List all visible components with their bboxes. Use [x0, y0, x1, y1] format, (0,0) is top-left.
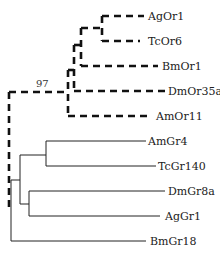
- leaf-label-bmgr18: BmGr18: [150, 235, 197, 248]
- gr-clade-branches: [11, 141, 165, 241]
- leaf-label-tcgr140: TcGr140: [158, 160, 206, 173]
- leaf-label-bmor1: BmOr1: [162, 60, 202, 73]
- or-clade-branches: [9, 16, 165, 210]
- leaf-label-aggr1: AgGr1: [164, 210, 201, 223]
- bootstrap-value: 97: [36, 78, 49, 89]
- leaf-label-amor11: AmOr11: [155, 110, 203, 123]
- leaf-label-agor1: AgOr1: [147, 10, 184, 23]
- leaf-label-amgr4: AmGr4: [147, 135, 187, 148]
- phylogenetic-tree: 97 AgOr1 TcOr6 BmOr1 DmOr35a AmOr11 AmGr…: [0, 0, 220, 255]
- leaf-label-tcor6: TcOr6: [148, 35, 182, 48]
- leaf-label-dmgr8a: DmGr8a: [168, 185, 215, 198]
- leaf-label-dmor35a: DmOr35a: [168, 85, 220, 98]
